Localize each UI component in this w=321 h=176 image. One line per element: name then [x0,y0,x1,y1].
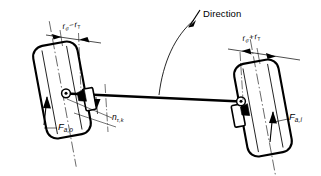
diagram-canvas [0,0,321,176]
offset-subscript: τ,k [117,117,124,123]
offset-label: nτ,k [112,113,124,122]
direction-arrow-shaft [189,10,200,27]
dim-right-sub-2: T [257,36,261,42]
force-inner-symbol: F [289,111,295,122]
force-inner-label: Fa,i [289,112,302,122]
dimension-right-label: rσ+rT [242,32,261,42]
direction-label: Direction [203,9,241,19]
direction-arc [159,20,194,95]
force-outer-subscript: a,o [64,126,73,133]
steering-axle-diagram: Direction rσ−rT rσ+rT nτ,k Fa,o Fa,i [0,0,321,176]
dim-arrowhead-left-1 [52,34,62,40]
dim-right-sub-1: σ [245,37,249,43]
dim-arrowhead-right-1 [242,49,252,55]
dim-left-sub-1: σ [65,25,69,31]
steering-joint-left-center [65,92,68,95]
force-outer-label: Fa,o [58,122,73,132]
direction-indicator[interactable] [159,10,200,95]
offset-reference-line [105,84,108,132]
force-outer-symbol: F [58,121,64,132]
dimension-line-right [228,49,300,60]
force-inner-subscript: a,i [295,116,302,123]
dim-arrowhead-left-2 [80,37,90,43]
steering-joint-right-center [240,100,243,103]
dim-arrowhead-right-2 [266,53,276,59]
dimension-left-label: rσ−rT [62,20,81,30]
dim-left-sub-2: T [77,24,81,30]
